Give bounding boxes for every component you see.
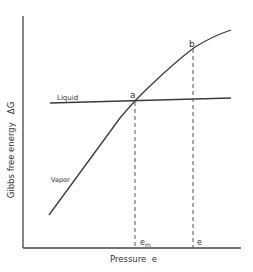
x-axis-label: Pressure e bbox=[110, 254, 157, 264]
vapor-curve bbox=[49, 30, 231, 215]
y-axis-label: Gibbs free energy ΔG bbox=[6, 102, 16, 198]
liquid-label: Liquid bbox=[57, 94, 78, 102]
em-marker-label: em bbox=[140, 238, 151, 248]
point-a-label: a bbox=[130, 90, 136, 100]
point-b-label: b bbox=[189, 39, 195, 49]
gibbs-energy-diagram: Gibbs free energy ΔG Liquid Vapor a b em… bbox=[0, 0, 253, 272]
vapor-label: Vapor bbox=[51, 176, 70, 184]
e-marker-label: e bbox=[197, 238, 202, 247]
